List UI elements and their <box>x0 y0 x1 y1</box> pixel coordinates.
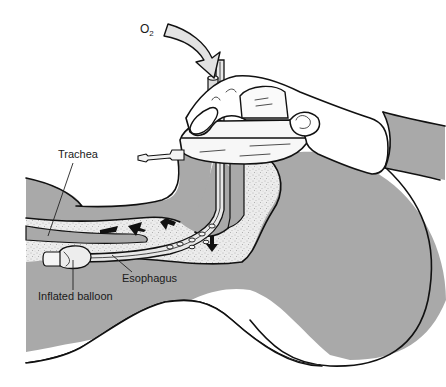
pilot-valve <box>138 150 184 162</box>
airway-illustration: O2 Trachea Esophagus Inflated balloon <box>0 0 446 387</box>
epiglottis <box>228 160 244 228</box>
inflated-balloon <box>58 246 91 269</box>
mask-dome <box>240 86 288 118</box>
oxygen-label-subscript: 2 <box>149 29 154 38</box>
tube-tip <box>43 252 60 266</box>
trachea-label: Trachea <box>58 148 99 160</box>
oxygen-label: O2 <box>140 22 154 38</box>
oxygen-label-main: O <box>140 22 149 36</box>
inflated-balloon-label: Inflated balloon <box>38 290 113 302</box>
oxygen-flow-arrow-icon <box>164 24 220 78</box>
esophagus-label: Esophagus <box>122 272 178 284</box>
